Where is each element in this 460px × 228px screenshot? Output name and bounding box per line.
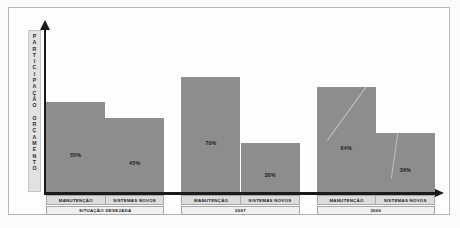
chart-frame: PARTICIPAÇÃO.ORÇAMENTO 55%45%70%30%64%36… xyxy=(8,7,450,215)
bar-value-label: 36% xyxy=(400,167,411,173)
bar-value-label: 30% xyxy=(264,172,275,178)
y-axis-title-letter: O xyxy=(32,102,36,108)
bar: 36% xyxy=(376,133,435,192)
category-label-rows: MANUTENÇÃOSISTEMAS NOVOSSITUAÇÃO DESEJAD… xyxy=(46,195,435,219)
bar-value-label: 64% xyxy=(341,145,352,151)
group-label-block: MANUTENÇÃOSISTEMAS NOVOS2006 xyxy=(317,195,435,219)
y-axis-title-letter: O xyxy=(32,165,36,171)
group-label-block: MANUTENÇÃOSISTEMAS NOVOS2007 xyxy=(181,195,299,219)
group-label: SITUAÇÃO DESEJADA xyxy=(46,206,164,215)
bar: 64% xyxy=(317,87,376,192)
group-label: 2006 xyxy=(317,206,435,215)
bar: 55% xyxy=(46,102,105,192)
bar: 70% xyxy=(181,77,240,192)
category-label: MANUTENÇÃO xyxy=(181,195,241,205)
category-label: SISTEMAS NOVOS xyxy=(375,195,435,205)
bar: 30% xyxy=(241,143,300,192)
bar: 45% xyxy=(105,118,164,192)
bar-value-label: 45% xyxy=(129,160,140,166)
group-label-block: MANUTENÇÃOSISTEMAS NOVOSSITUAÇÃO DESEJAD… xyxy=(46,195,164,219)
category-row: MANUTENÇÃOSISTEMAS NOVOS xyxy=(181,195,299,205)
category-label: SISTEMAS NOVOS xyxy=(105,195,165,205)
category-row: MANUTENÇÃOSISTEMAS NOVOS xyxy=(46,195,164,205)
bar-value-label: 55% xyxy=(70,152,81,158)
group-label: 2007 xyxy=(181,206,299,215)
category-label: SISTEMAS NOVOS xyxy=(240,195,300,205)
category-label: MANUTENÇÃO xyxy=(46,195,106,205)
category-row: MANUTENÇÃOSISTEMAS NOVOS xyxy=(317,195,435,205)
scanned-page: PARTICIPAÇÃO.ORÇAMENTO 55%45%70%30%64%36… xyxy=(0,0,460,228)
bar-value-label: 70% xyxy=(205,140,216,146)
category-label: MANUTENÇÃO xyxy=(317,195,377,205)
plot-area: 55%45%70%30%64%36% xyxy=(46,28,435,192)
y-axis-title: PARTICIPAÇÃO.ORÇAMENTO xyxy=(28,30,41,192)
